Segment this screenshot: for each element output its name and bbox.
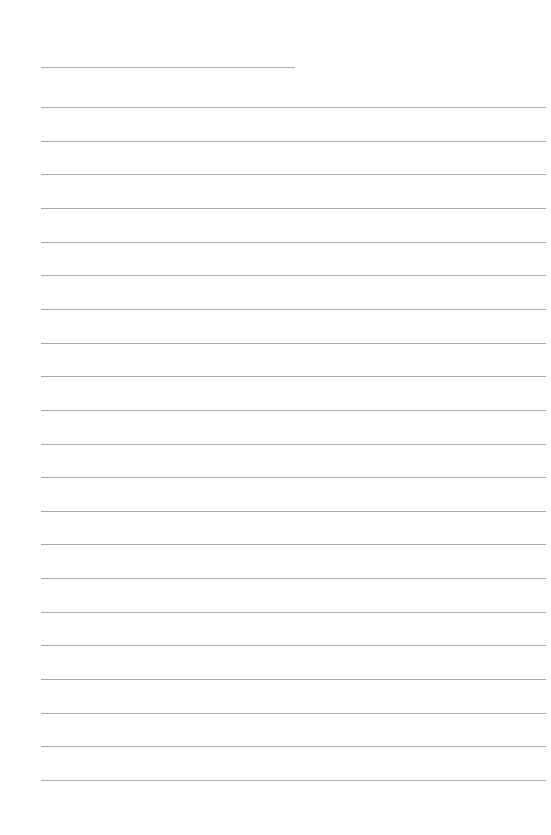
ruled-line (41, 511, 546, 512)
lined-page (0, 0, 551, 835)
ruled-line (41, 444, 546, 445)
ruled-line (41, 410, 546, 411)
ruled-line (41, 746, 546, 747)
ruled-line (41, 343, 546, 344)
ruled-line (41, 578, 546, 579)
ruled-line (41, 780, 546, 781)
ruled-line (41, 477, 546, 478)
ruled-line (41, 208, 546, 209)
ruled-line (41, 713, 546, 714)
header-short-line (41, 67, 295, 68)
ruled-line (41, 679, 546, 680)
ruled-line (41, 107, 546, 108)
ruled-line (41, 645, 546, 646)
ruled-line (41, 376, 546, 377)
ruled-line (41, 544, 546, 545)
ruled-line (41, 141, 546, 142)
ruled-line (41, 309, 546, 310)
ruled-line (41, 275, 546, 276)
ruled-line (41, 174, 546, 175)
ruled-line (41, 612, 546, 613)
ruled-line (41, 242, 546, 243)
